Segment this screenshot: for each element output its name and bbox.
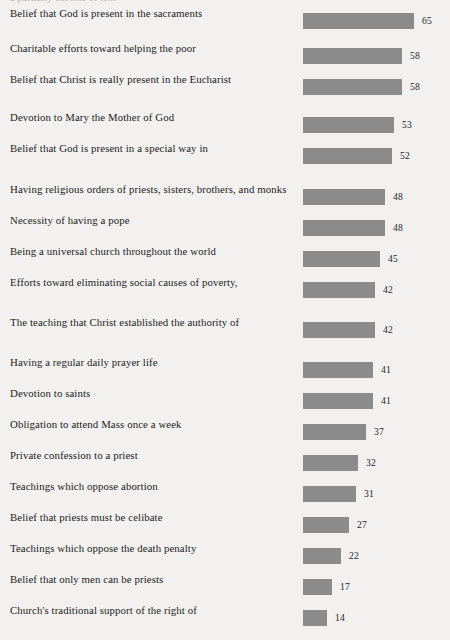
bar-cell: 32 xyxy=(300,448,450,479)
category-label: Devotion to Mary the Mother of God xyxy=(0,110,300,124)
bar xyxy=(303,424,366,440)
bar-value-label: 48 xyxy=(393,190,403,204)
category-label: Teachings which oppose the death penalty xyxy=(0,541,300,555)
chart-row: Being a universal church throughout the … xyxy=(0,244,450,275)
bar-cell: 48 xyxy=(300,182,450,213)
bar-value-label: 42 xyxy=(383,283,393,297)
bar-value-label: 41 xyxy=(381,363,391,377)
chart-row: Belief that priests must be celibate27 xyxy=(0,510,450,541)
bar-cell: 42 xyxy=(300,275,450,306)
bar xyxy=(303,362,373,378)
bar-value-label: 14 xyxy=(335,611,345,625)
horizontal-bar-chart: a partially cut line of text Belief that… xyxy=(0,0,450,640)
bar-cell: 65 xyxy=(300,6,450,37)
chart-row: Having religious orders of priests, sist… xyxy=(0,182,450,213)
bar-cell: 27 xyxy=(300,510,450,541)
category-label: Belief that only men can be priests xyxy=(0,572,300,586)
category-label: Having a regular daily prayer life xyxy=(0,355,300,369)
category-label: Being a universal church throughout the … xyxy=(0,244,300,258)
bar-value-label: 41 xyxy=(381,394,391,408)
chart-row: Necessity of having a pope48 xyxy=(0,213,450,244)
chart-row: The teaching that Christ established the… xyxy=(0,315,450,355)
bar xyxy=(303,579,332,595)
category-label: Having religious orders of priests, sist… xyxy=(0,182,300,196)
bar-cell: 42 xyxy=(300,315,450,346)
chart-rows: Belief that God is present in the sacram… xyxy=(0,6,450,637)
bar-cell: 31 xyxy=(300,479,450,510)
bar-value-label: 37 xyxy=(374,425,384,439)
chart-row: Charitable efforts toward helping the po… xyxy=(0,41,450,72)
bar-cell: 45 xyxy=(300,244,450,275)
category-label: Devotion to saints xyxy=(0,386,300,400)
bar xyxy=(303,220,385,236)
bar xyxy=(303,13,414,29)
bar xyxy=(303,455,358,471)
bar-cell: 48 xyxy=(300,213,450,244)
chart-row: Efforts toward eliminating social causes… xyxy=(0,275,450,315)
bar-value-label: 22 xyxy=(349,549,359,563)
chart-row: Teachings which oppose abortion31 xyxy=(0,479,450,510)
chart-row: Private confession to a priest32 xyxy=(0,448,450,479)
bar xyxy=(303,48,402,64)
bar xyxy=(303,117,394,133)
bar-cell: 58 xyxy=(300,41,450,72)
bar xyxy=(303,322,375,338)
bar-cell: 41 xyxy=(300,386,450,417)
category-label: Private confession to a priest xyxy=(0,448,300,462)
bar-cell: 14 xyxy=(300,603,450,634)
bar-value-label: 48 xyxy=(393,221,403,235)
category-label: Church's traditional support of the righ… xyxy=(0,603,300,617)
bar-cell: 17 xyxy=(300,572,450,603)
bar-value-label: 53 xyxy=(402,118,412,132)
bar xyxy=(303,282,375,298)
bar xyxy=(303,251,380,267)
bar-cell: 37 xyxy=(300,417,450,448)
chart-row: Belief that Christ is really present in … xyxy=(0,72,450,110)
bar-value-label: 31 xyxy=(364,487,374,501)
category-label: Belief that priests must be celibate xyxy=(0,510,300,524)
bar xyxy=(303,517,349,533)
bar xyxy=(303,548,341,564)
chart-row: Obligation to attend Mass once a week37 xyxy=(0,417,450,448)
chart-row: Church's traditional support of the righ… xyxy=(0,603,450,637)
category-label: Belief that God is present in the sacram… xyxy=(0,6,300,20)
clipped-text-above: a partially cut line of text xyxy=(10,0,240,4)
category-label: Efforts toward eliminating social causes… xyxy=(0,275,300,289)
bar-value-label: 27 xyxy=(357,518,367,532)
bar-cell: 58 xyxy=(300,72,450,103)
bar xyxy=(303,610,327,626)
chart-row: Belief that God is present in a special … xyxy=(0,141,450,182)
chart-row: Devotion to saints41 xyxy=(0,386,450,417)
category-label: Belief that God is present in a special … xyxy=(0,141,300,155)
category-label: Necessity of having a pope xyxy=(0,213,300,227)
bar-value-label: 52 xyxy=(400,149,410,163)
category-label: Charitable efforts toward helping the po… xyxy=(0,41,300,55)
bar-value-label: 58 xyxy=(410,49,420,63)
bar-value-label: 65 xyxy=(422,14,432,28)
bar-value-label: 42 xyxy=(383,323,393,337)
bar xyxy=(303,189,385,205)
chart-row: Devotion to Mary the Mother of God53 xyxy=(0,110,450,141)
category-label: Obligation to attend Mass once a week xyxy=(0,417,300,431)
bar-value-label: 58 xyxy=(410,80,420,94)
bar-value-label: 32 xyxy=(366,456,376,470)
bar-cell: 53 xyxy=(300,110,450,141)
chart-row: Belief that only men can be priests17 xyxy=(0,572,450,603)
bar xyxy=(303,148,392,164)
bar-cell: 22 xyxy=(300,541,450,572)
bar-cell: 52 xyxy=(300,141,450,172)
category-label: Teachings which oppose abortion xyxy=(0,479,300,493)
bar xyxy=(303,79,402,95)
bar xyxy=(303,393,373,409)
category-label: The teaching that Christ established the… xyxy=(0,315,300,329)
bar-value-label: 45 xyxy=(388,252,398,266)
chart-row: Belief that God is present in the sacram… xyxy=(0,6,450,41)
category-label: Belief that Christ is really present in … xyxy=(0,72,300,86)
chart-row: Teachings which oppose the death penalty… xyxy=(0,541,450,572)
bar xyxy=(303,486,356,502)
bar-value-label: 17 xyxy=(340,580,350,594)
bar-cell: 41 xyxy=(300,355,450,386)
chart-row: Having a regular daily prayer life41 xyxy=(0,355,450,386)
